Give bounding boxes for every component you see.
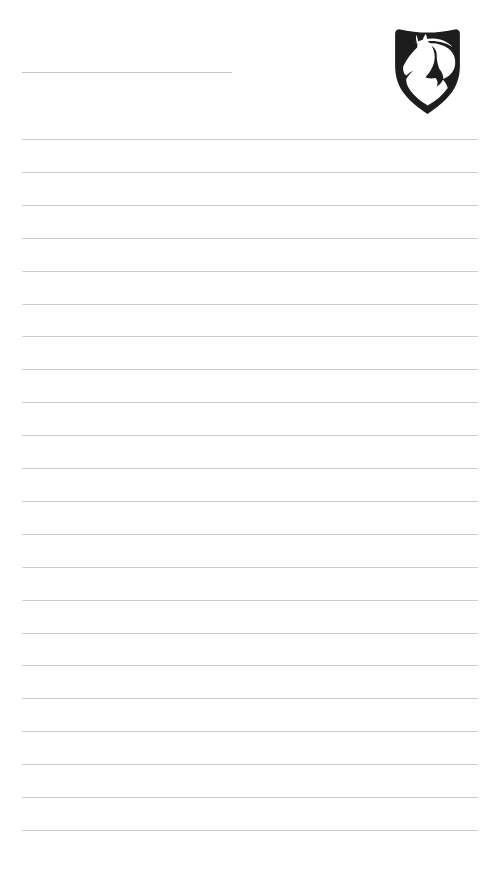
ruled-line — [22, 731, 478, 732]
ruled-line — [22, 698, 478, 699]
ruled-line — [22, 336, 478, 337]
ruled-line — [22, 369, 478, 370]
ruled-line — [22, 600, 478, 601]
ruled-line — [22, 172, 478, 173]
ruled-line — [22, 534, 478, 535]
ruled-line — [22, 139, 478, 140]
ruled-line — [22, 402, 478, 403]
ruled-line — [22, 238, 478, 239]
ruled-line — [22, 633, 478, 634]
ruled-line — [22, 764, 478, 765]
ruled-line — [22, 567, 478, 568]
ruled-line — [22, 271, 478, 272]
ruled-line — [22, 205, 478, 206]
ruled-line — [22, 304, 478, 305]
ruled-line — [22, 435, 478, 436]
ruled-line — [22, 830, 478, 831]
notepad-page — [0, 0, 498, 869]
ruled-line — [22, 665, 478, 666]
ruled-lines — [0, 0, 498, 869]
ruled-line — [22, 468, 478, 469]
ruled-line — [22, 797, 478, 798]
ruled-line — [22, 501, 478, 502]
